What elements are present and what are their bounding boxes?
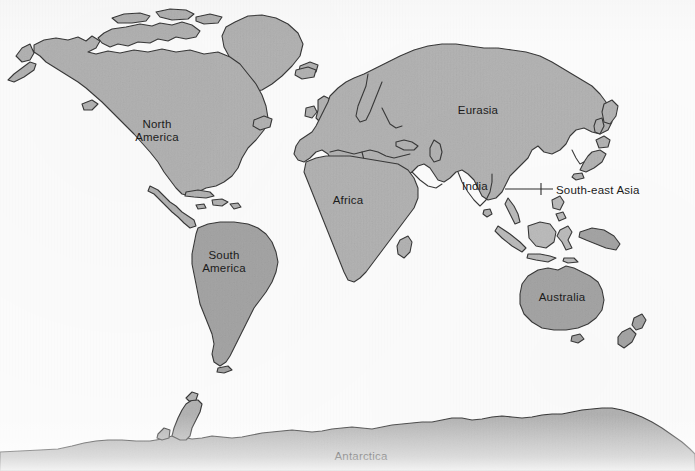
- world-map-svg: [0, 0, 695, 471]
- world-map-figure: North America South America Eurasia Afri…: [0, 0, 695, 471]
- land-caribbean-islet-2: [196, 204, 206, 209]
- land-japan-south: [572, 173, 584, 180]
